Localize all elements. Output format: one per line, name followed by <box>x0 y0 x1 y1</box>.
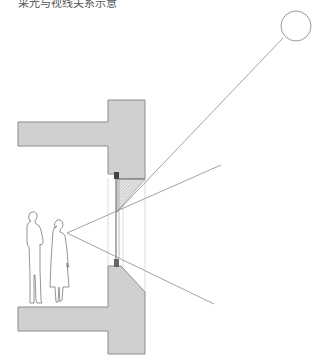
lower-wall <box>18 266 145 354</box>
upper-wall <box>18 100 145 179</box>
sun-icon <box>281 11 311 41</box>
section-diagram <box>0 0 324 360</box>
person-man <box>27 212 43 303</box>
person-woman <box>50 220 69 302</box>
